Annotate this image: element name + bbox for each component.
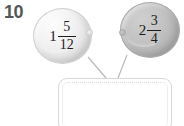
mixed-number-2-fraction: 3 4 [147, 14, 161, 46]
worksheet-problem-canvas: 10 1 5 12 2 3 [0, 0, 184, 126]
mixed-number-2-numerator: 3 [149, 14, 160, 28]
mixed-number-1-whole: 1 [49, 29, 58, 44]
answer-box-value[interactable] [59, 79, 171, 126]
mixed-number-1-numerator: 5 [61, 20, 72, 34]
balloon-fraction-2[interactable]: 2 3 4 [120, 2, 180, 58]
question-number: 10 [4, 2, 23, 22]
balloon-2-value: 2 3 4 [121, 3, 179, 57]
mixed-number-1: 1 5 12 [49, 20, 76, 52]
mixed-number-1-denominator: 12 [58, 38, 76, 52]
mixed-number-2-whole: 2 [139, 23, 148, 38]
balloon-1-value: 1 5 12 [34, 9, 91, 63]
connector-line-right [118, 55, 127, 78]
mixed-number-2: 2 3 4 [139, 14, 162, 46]
mixed-number-1-fraction: 5 12 [58, 20, 76, 52]
balloon-fraction-1[interactable]: 1 5 12 [33, 8, 92, 64]
mixed-number-2-denominator: 4 [149, 32, 160, 46]
answer-box[interactable] [58, 78, 172, 126]
